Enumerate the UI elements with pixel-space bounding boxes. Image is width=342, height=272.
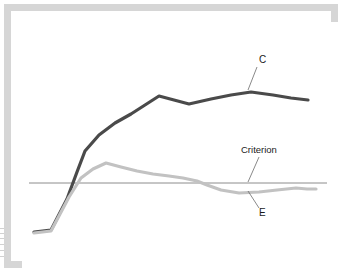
series-e-annotation: E <box>259 207 266 218</box>
leader-line-criterion-annotation <box>248 157 259 182</box>
series-line-c <box>34 92 308 232</box>
edge-artifact-mark <box>0 228 4 229</box>
chart-frame: CCriterionE <box>4 4 338 268</box>
edge-artifact-mark <box>0 238 4 239</box>
chart-screenshot: CCriterionE <box>0 0 342 272</box>
edge-artifact-mark <box>0 250 4 251</box>
edge-artifact-mark <box>0 233 4 234</box>
series-c-annotation: C <box>259 54 266 65</box>
scan-edge-artifacts <box>0 228 5 262</box>
leader-line-series-c-annotation <box>248 67 257 90</box>
criterion-annotation: Criterion <box>241 144 277 155</box>
plot-area: CCriterionE <box>22 22 342 272</box>
plot-svg: CCriterionE <box>22 22 342 272</box>
series-group <box>34 92 316 233</box>
edge-artifact-mark <box>0 256 4 257</box>
edge-artifact-mark <box>0 244 4 245</box>
annotation-leaders-group <box>248 67 259 208</box>
